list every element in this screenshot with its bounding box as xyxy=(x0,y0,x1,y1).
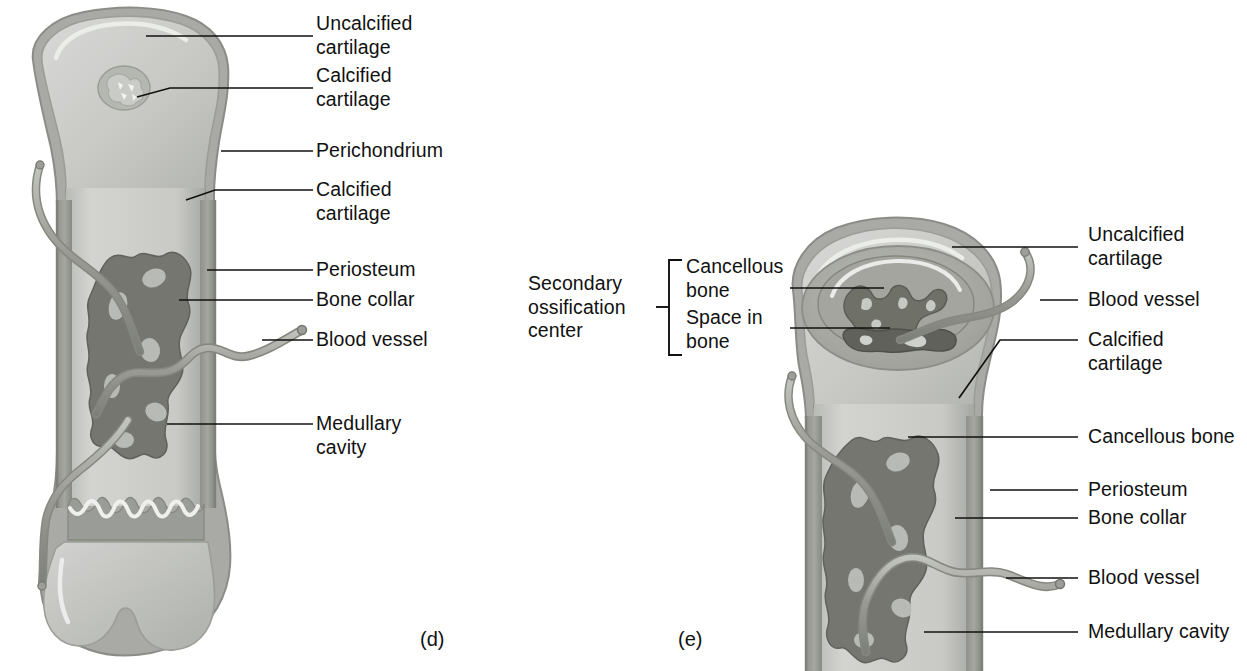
label-periosteum-e: Periosteum xyxy=(1088,478,1188,502)
label-calcified-cartilage-epiphysis-d: Calcifiedcartilage xyxy=(316,64,392,111)
figure-canvas: Uncalcifiedcartilage Calcifiedcartilage … xyxy=(0,0,1247,671)
label-uncalcified-cartilage-e: Uncalcifiedcartilage xyxy=(1088,223,1184,270)
label-cancellous-bone-diaphysis-e: Cancellous bone xyxy=(1088,425,1235,449)
label-blood-vessel-diaphysis-e: Blood vessel xyxy=(1088,566,1200,590)
label-secondary-ossification-center: Secondaryossificationcenter xyxy=(528,272,626,343)
calcified-cartilage-nodule-d xyxy=(98,66,150,110)
label-uncalcified-cartilage-d: Uncalcifiedcartilage xyxy=(316,12,412,59)
label-calcified-cartilage-metaphysis-d: Calcifiedcartilage xyxy=(316,178,392,225)
label-perichondrium-d: Perichondrium xyxy=(316,139,443,163)
label-blood-vessel-d: Blood vessel xyxy=(316,328,428,352)
label-cancellous-bone-epiphysis-e: Cancellousbone xyxy=(686,255,783,302)
label-medullary-cavity-e: Medullary cavity xyxy=(1088,620,1229,644)
label-bone-collar-e: Bone collar xyxy=(1088,506,1187,530)
secondary-ossification-bracket xyxy=(669,260,682,355)
label-medullary-cavity-d: Medullarycavity xyxy=(316,412,401,459)
label-bone-collar-d: Bone collar xyxy=(316,288,415,312)
label-calcified-cartilage-e: Calcifiedcartilage xyxy=(1088,328,1164,375)
figure-caption-d: (d) xyxy=(420,628,444,651)
label-periosteum-d: Periosteum xyxy=(316,258,416,282)
bone-panel-d xyxy=(33,7,313,655)
label-blood-vessel-epiphysis-e: Blood vessel xyxy=(1088,288,1200,312)
bone-collar-right-d xyxy=(200,200,215,508)
label-space-in-bone-e: Space inbone xyxy=(686,306,763,353)
figure-caption-e: (e) xyxy=(678,628,702,651)
